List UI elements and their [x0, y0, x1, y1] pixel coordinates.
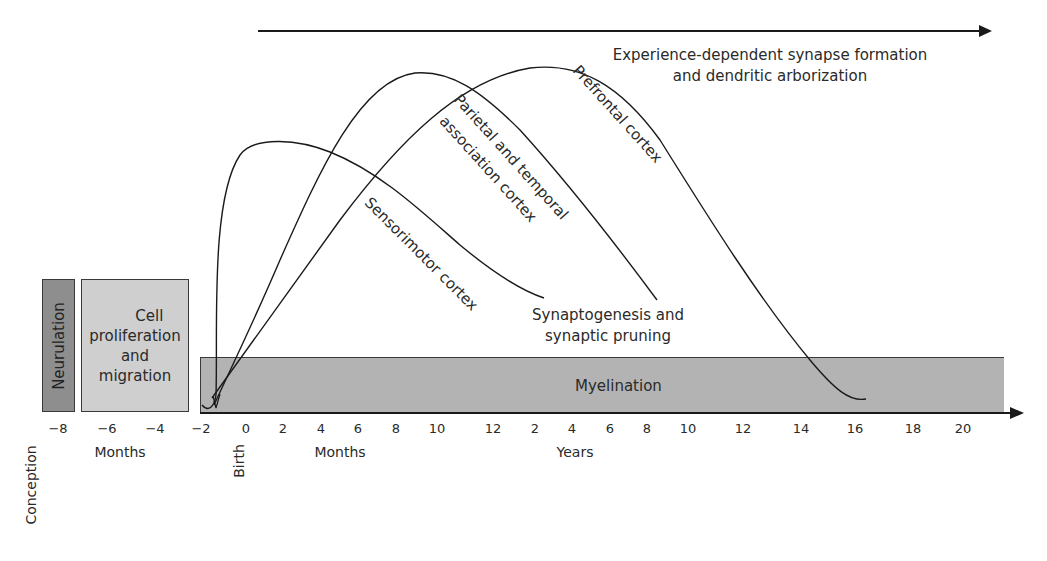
tick-year-2: 2: [531, 421, 539, 436]
tick-year-12: 12: [735, 421, 752, 436]
tick-year-8: 8: [643, 421, 651, 436]
tick-month-8: 8: [392, 421, 400, 436]
x-axis: [200, 407, 1024, 419]
prefrontal-curve: [212, 67, 866, 399]
tick-month-6: 6: [354, 421, 362, 436]
synaptogenesis-label: Synaptogenesis and synaptic pruning: [532, 305, 684, 347]
diagram-canvas: Neurulation Cell proliferation and migra…: [0, 0, 1047, 561]
tick-prenatal-minus2: −2: [191, 421, 210, 436]
tick-prenatal-minus8: −8: [48, 421, 67, 436]
experience-dependent-label: Experience-dependent synapse formation a…: [580, 45, 960, 87]
tick-year-20: 20: [955, 421, 972, 436]
tick-month-0: 0: [242, 421, 250, 436]
postnatal-months-unit: Months: [314, 444, 365, 460]
tick-year-10: 10: [680, 421, 697, 436]
tick-year-16: 16: [847, 421, 864, 436]
tick-prenatal-minus6: −6: [97, 421, 116, 436]
prenatal-months-unit: Months: [94, 444, 145, 460]
tick-year-14: 14: [793, 421, 810, 436]
tick-year-6: 6: [606, 421, 614, 436]
birth-label: Birth: [231, 444, 247, 478]
tick-month-12: 12: [485, 421, 502, 436]
tick-year-18: 18: [905, 421, 922, 436]
tick-year-4: 4: [568, 421, 576, 436]
tick-month-4: 4: [317, 421, 325, 436]
tick-prenatal-minus4: −4: [145, 421, 164, 436]
parietal-temporal-curve: [214, 73, 657, 405]
conception-label: Conception: [23, 445, 39, 524]
tick-month-2: 2: [279, 421, 287, 436]
years-unit: Years: [557, 444, 594, 460]
tick-month-10: 10: [429, 421, 446, 436]
